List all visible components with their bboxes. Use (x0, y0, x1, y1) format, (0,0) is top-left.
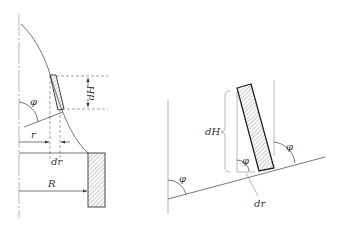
dr-label-left: dr (51, 156, 63, 167)
dr-label-right: dr (254, 198, 266, 209)
dH-label-left: dH (85, 85, 96, 100)
diagram-canvas: dH φ r dr R φ dH (0, 0, 341, 228)
left-figure: dH φ r dr R (19, 14, 108, 218)
dH-label-right: dH (205, 126, 220, 137)
right-figure: φ dH φ dr φ (168, 80, 325, 214)
phi-label-bottom-left: φ (179, 173, 186, 184)
dH-brace (221, 91, 230, 172)
phi-label-left: φ (30, 96, 37, 107)
hatched-element (50, 75, 64, 110)
r-label: r (31, 129, 37, 140)
container-wall (88, 153, 105, 207)
phi-label-element: φ (242, 155, 249, 166)
R-label: R (47, 178, 56, 189)
normal-line (24, 112, 63, 127)
phi-label-right: φ (286, 141, 293, 152)
